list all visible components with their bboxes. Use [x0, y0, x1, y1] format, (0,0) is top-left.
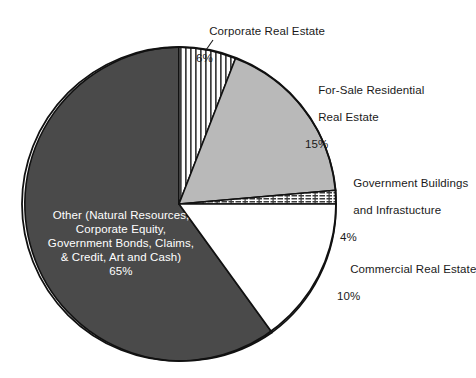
pie-label-for-sale-residential-real-estate: For-Sale Residential Real Estate 15% [305, 70, 424, 178]
pie-label-other-line3: Government Bonds, Claims, [48, 237, 194, 249]
pie-label-other-line1: Other (Natural Resources, [53, 209, 190, 221]
pie-label-other-line4: & Credit, Art and Cash) [61, 251, 182, 263]
pie-label-other-percent: 65% [109, 265, 132, 277]
pie-label-for-sale-residential-line2: Real Estate [318, 111, 379, 123]
pie-label-corporate-real-estate-line1: Corporate Real Estate [209, 25, 325, 37]
pie-label-for-sale-residential-line1: For-Sale Residential [318, 84, 424, 96]
pie-label-commercial-real-estate-percent: 10% [337, 290, 476, 304]
pie-label-other: Other (Natural Resources, Corporate Equi… [22, 208, 220, 278]
pie-label-other-line2: Corporate Equity, [76, 223, 166, 235]
pie-label-commercial-real-estate-line1: Commercial Real Estate [350, 263, 476, 275]
pie-label-government-buildings-line2: and Infrastucture [353, 204, 441, 216]
pie-label-government-buildings-line1: Government Buildings [353, 177, 468, 189]
pie-label-corporate-real-estate-percent: 6% [196, 52, 325, 66]
pie-label-government-buildings-percent: 4% [340, 231, 468, 245]
pie-label-commercial-real-estate: Commercial Real Estate 10% [337, 249, 476, 330]
pie-label-for-sale-residential-percent: 15% [305, 138, 424, 152]
